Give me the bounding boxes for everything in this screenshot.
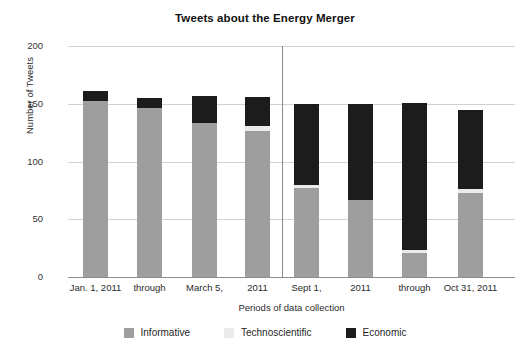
chart-title: Tweets about the Energy Merger — [0, 12, 530, 24]
legend-swatch-icon — [346, 328, 356, 338]
legend-item[interactable]: Economic — [346, 327, 407, 338]
bar-segment-economic — [348, 104, 373, 200]
bar-segment-informative — [245, 131, 270, 277]
chart-container: Tweets about the Energy Merger 050100150… — [0, 0, 530, 356]
bar-segment-informative — [83, 101, 108, 277]
bar-segment-informative — [192, 123, 217, 277]
bar-segment-economic — [245, 97, 270, 126]
gridline — [68, 46, 515, 47]
legend-label: Informative — [141, 327, 190, 338]
bar-segment-informative — [294, 188, 319, 277]
chart-legend: InformativeTechnoscientificEconomic — [0, 327, 530, 338]
y-axis-tick-label: 150 — [0, 98, 43, 109]
bar[interactable] — [245, 97, 270, 277]
legend-swatch-icon — [124, 328, 134, 338]
bar-segment-techno — [245, 126, 270, 132]
legend-item[interactable]: Technoscientific — [224, 327, 312, 338]
legend-swatch-icon — [224, 328, 234, 338]
gridline — [68, 219, 515, 220]
x-axis-tick-label: Oct 31, 2011 — [431, 282, 511, 293]
x-axis-label: Periods of data collection — [68, 302, 515, 313]
y-axis-tick-label: 200 — [0, 40, 43, 51]
y-axis-tick-label: 100 — [0, 156, 43, 167]
bar[interactable] — [83, 91, 108, 277]
y-axis-tick-label: 0 — [0, 271, 43, 282]
bar[interactable] — [402, 103, 427, 277]
bar-segment-informative — [402, 253, 427, 277]
bar-segment-techno — [402, 250, 427, 252]
bar-segment-economic — [294, 104, 319, 185]
x-axis-line — [68, 277, 515, 278]
bar[interactable] — [294, 104, 319, 277]
bar[interactable] — [348, 104, 373, 277]
bar-segment-economic — [83, 91, 108, 101]
bar[interactable] — [137, 98, 162, 277]
bar-segment-techno — [458, 189, 483, 192]
bar-segment-economic — [402, 103, 427, 251]
bar-segment-economic — [458, 110, 483, 190]
group-divider — [282, 46, 283, 277]
bar-segment-techno — [294, 185, 319, 188]
gridline — [68, 162, 515, 163]
legend-item[interactable]: Informative — [124, 327, 190, 338]
bar-segment-informative — [348, 200, 373, 277]
plot-area: 050100150200 Number of Tweets Jan. 1, 20… — [68, 46, 515, 277]
y-axis-tick-label: 50 — [0, 213, 43, 224]
bar[interactable] — [458, 110, 483, 277]
gridline — [68, 104, 515, 105]
bar-segment-economic — [137, 98, 162, 108]
bar-segment-informative — [458, 193, 483, 277]
legend-label: Economic — [363, 327, 407, 338]
legend-label: Technoscientific — [241, 327, 312, 338]
bar-segment-economic — [192, 96, 217, 124]
y-axis-label: Number of Tweets — [24, 57, 35, 134]
bar-segment-informative — [137, 108, 162, 277]
bar[interactable] — [192, 96, 217, 277]
